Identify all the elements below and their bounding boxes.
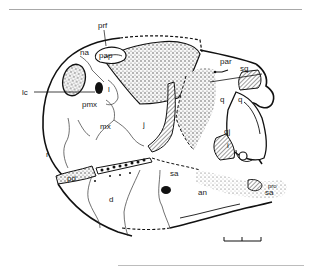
mandible-lower-rear	[170, 202, 272, 228]
label-q-outer: q	[238, 95, 242, 104]
skull-diagram: prf pap na lc pmx l mx j r pd d sa an pa…	[0, 0, 310, 267]
parietal-foramen	[216, 70, 228, 72]
label-pd: pd	[67, 174, 76, 183]
label-lc: lc	[22, 88, 28, 97]
suture-mx-left	[78, 120, 90, 136]
naris-stippled	[59, 62, 89, 99]
hatched-squamosal	[239, 70, 261, 90]
suture-d-sa	[124, 170, 140, 236]
label-sa-rear: sa	[265, 188, 274, 197]
suture-sa-an	[159, 170, 170, 228]
label-pap: pap	[99, 51, 113, 60]
hatched-articular	[248, 179, 262, 190]
label-prf: prf	[98, 21, 108, 30]
label-na: na	[80, 48, 89, 57]
label-an: an	[198, 188, 207, 197]
label-sa-mid: sa	[170, 169, 179, 178]
label-j: j	[142, 120, 145, 129]
label-pmx: pmx	[82, 100, 97, 109]
label-q-inner: q	[220, 95, 224, 104]
mandible-outline	[58, 184, 132, 236]
mandible-dashed-bottom	[122, 228, 170, 230]
lacrimal-foramen	[95, 82, 103, 94]
suture-mx	[114, 120, 144, 146]
label-mx: mx	[100, 122, 111, 131]
label-i: i	[227, 141, 229, 150]
label-d: d	[109, 195, 113, 204]
mandibular-fenestra	[161, 186, 171, 194]
suture-pmx	[96, 100, 115, 140]
label-par: par	[220, 57, 232, 66]
label-sq: sq	[240, 64, 248, 73]
mandible-inner-line	[180, 204, 240, 218]
suture-r	[64, 118, 69, 168]
label-qj: qj	[224, 127, 230, 136]
label-l: l	[108, 85, 110, 94]
prf-leader	[104, 30, 106, 46]
scale-bar	[224, 237, 261, 241]
parietal-dot	[214, 71, 217, 74]
label-r: r	[46, 150, 49, 159]
